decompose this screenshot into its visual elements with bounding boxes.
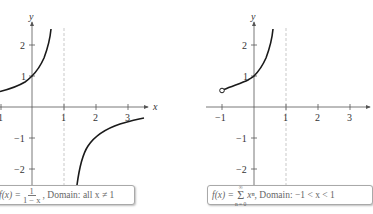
left-caption-function: f(x) = — [0, 190, 21, 200]
left-curve-branch-2 — [77, 118, 144, 185]
left-ytick-2: 2 — [20, 40, 25, 51]
right-xtick-1: 1 — [283, 112, 288, 123]
left-ytick-neg1: −1 — [14, 133, 25, 144]
left-caption-box: f(x) = 1 1 − x , Domain: all x ≠ 1 — [0, 185, 135, 205]
right-caption-sum-bottom: n = 0 — [235, 201, 246, 207]
left-xtick-neg1: 1 — [0, 112, 3, 123]
right-caption-sum: ∞ Σ n = 0 — [235, 184, 246, 207]
left-ytick-1: 1 — [21, 71, 26, 82]
right-caption-term: xⁿ — [247, 190, 254, 200]
left-caption-denominator: 1 − x — [23, 196, 41, 204]
left-xtick-1: 1 — [61, 112, 66, 123]
left-curve-branch-1 — [0, 29, 51, 92]
left-graph: 1 1 2 3 2 1 −1 −2 y x — [0, 11, 158, 200]
left-caption-fraction: 1 1 − x — [23, 187, 41, 204]
right-graph: −1 1 2 3 2 1 −1 −2 y — [206, 11, 370, 200]
left-ytick-neg2: −2 — [14, 164, 25, 175]
right-xtick-2: 2 — [315, 112, 320, 123]
sigma-icon: Σ — [237, 190, 244, 201]
right-caption-function: f(x) = — [212, 190, 234, 200]
right-open-endpoint — [220, 88, 225, 93]
left-y-label: y — [28, 11, 34, 22]
right-xtick-3: 3 — [347, 112, 352, 123]
right-caption-box: f(x) = ∞ Σ n = 0 xⁿ , Domain: −1 < x < 1 — [207, 185, 373, 205]
right-ytick-neg2: −2 — [236, 164, 247, 175]
right-curve — [224, 29, 273, 90]
right-ytick-neg1: −1 — [236, 133, 247, 144]
right-y-label: y — [250, 11, 256, 22]
left-caption-domain: , Domain: all x ≠ 1 — [43, 190, 115, 200]
left-x-label: x — [152, 101, 158, 112]
left-xtick-2: 2 — [93, 112, 98, 123]
right-ytick-2: 2 — [242, 40, 247, 51]
right-caption-domain: , Domain: −1 < x < 1 — [255, 190, 335, 200]
right-xtick-neg1: −1 — [215, 112, 226, 123]
